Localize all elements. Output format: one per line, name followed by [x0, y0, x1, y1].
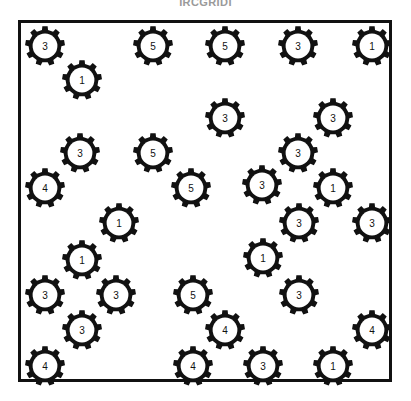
- gear-token[interactable]: 1: [352, 26, 392, 66]
- gear-value-label: 4: [222, 325, 228, 336]
- gear-value-label: 1: [116, 218, 122, 229]
- gear-token[interactable]: 3: [278, 133, 318, 173]
- gear-icon: 3: [242, 165, 282, 205]
- gear-icon: 1: [243, 238, 283, 278]
- gear-value-label: 4: [42, 183, 48, 194]
- gear-value-label: 4: [42, 361, 48, 372]
- gear-value-label: 1: [79, 255, 85, 266]
- gear-icon: 4: [205, 310, 245, 350]
- gear-value-label: 5: [222, 41, 228, 52]
- gear-token[interactable]: 1: [313, 168, 353, 208]
- gear-value-label: 3: [296, 218, 302, 229]
- gear-token[interactable]: 1: [62, 60, 102, 100]
- gear-icon: 4: [25, 346, 65, 386]
- gear-token[interactable]: 3: [352, 203, 392, 243]
- gear-token[interactable]: 5: [133, 26, 173, 66]
- gear-token[interactable]: 5: [171, 168, 211, 208]
- gear-token[interactable]: 3: [313, 98, 353, 138]
- gear-value-label: 5: [188, 183, 194, 194]
- gear-token[interactable]: 4: [25, 168, 65, 208]
- gear-icon: 3: [205, 98, 245, 138]
- gear-icon: 3: [352, 203, 392, 243]
- gear-value-label: 3: [79, 325, 85, 336]
- gear-value-label: 3: [259, 180, 265, 191]
- gear-icon: 3: [25, 26, 65, 66]
- gear-icon: 1: [62, 60, 102, 100]
- gear-icon: 5: [133, 133, 173, 173]
- gear-token[interactable]: 3: [25, 275, 65, 315]
- gear-token[interactable]: 1: [62, 240, 102, 280]
- gear-icon: 5: [133, 26, 173, 66]
- gear-token[interactable]: 4: [352, 310, 392, 350]
- gear-value-label: 1: [369, 41, 375, 52]
- gear-value-label: 1: [330, 361, 336, 372]
- gear-value-label: 1: [79, 75, 85, 86]
- gear-icon: 3: [278, 133, 318, 173]
- gear-icon: 1: [62, 240, 102, 280]
- gear-value-label: 1: [260, 253, 266, 264]
- gear-token[interactable]: 4: [173, 346, 213, 386]
- gear-value-label: 3: [113, 290, 119, 301]
- gear-token[interactable]: 3: [60, 133, 100, 173]
- gear-value-label: 4: [369, 325, 375, 336]
- gear-icon: 3: [62, 310, 102, 350]
- gear-token[interactable]: 3: [279, 203, 319, 243]
- gear-token[interactable]: 3: [278, 26, 318, 66]
- gear-value-label: 3: [296, 290, 302, 301]
- gear-grid-canvas: IRCGRIDI 3553113335345311331133533444431: [0, 0, 411, 401]
- gear-value-label: 3: [222, 113, 228, 124]
- gear-token[interactable]: 4: [205, 310, 245, 350]
- gear-token[interactable]: 5: [133, 133, 173, 173]
- gear-token[interactable]: 5: [173, 275, 213, 315]
- gear-token[interactable]: 5: [205, 26, 245, 66]
- gear-token[interactable]: 3: [62, 310, 102, 350]
- gear-icon: 3: [60, 133, 100, 173]
- gear-icon: 3: [279, 203, 319, 243]
- gear-icon: 3: [313, 98, 353, 138]
- gear-token[interactable]: 3: [242, 165, 282, 205]
- gear-icon: 4: [173, 346, 213, 386]
- gear-icon: 1: [313, 168, 353, 208]
- gear-value-label: 3: [295, 148, 301, 159]
- gear-value-label: 3: [369, 218, 375, 229]
- gear-icon: 5: [205, 26, 245, 66]
- gear-value-label: 3: [260, 361, 266, 372]
- gear-icon: 1: [99, 203, 139, 243]
- gear-icon: 3: [25, 275, 65, 315]
- gear-token[interactable]: 3: [243, 346, 283, 386]
- gear-value-label: 3: [42, 41, 48, 52]
- gear-value-label: 5: [150, 41, 156, 52]
- gear-value-label: 3: [42, 290, 48, 301]
- gear-token[interactable]: 1: [243, 238, 283, 278]
- page-title: IRCGRIDI: [0, 0, 411, 8]
- gear-value-label: 4: [190, 361, 196, 372]
- gear-icon: 4: [352, 310, 392, 350]
- gear-icon: 1: [313, 346, 353, 386]
- gear-icon: 3: [96, 275, 136, 315]
- gear-token[interactable]: 1: [99, 203, 139, 243]
- gear-value-label: 3: [295, 41, 301, 52]
- gear-token[interactable]: 3: [279, 275, 319, 315]
- gear-value-label: 3: [330, 113, 336, 124]
- gear-value-label: 5: [150, 148, 156, 159]
- gear-icon: 5: [173, 275, 213, 315]
- gear-token[interactable]: 4: [25, 346, 65, 386]
- gear-icon: 5: [171, 168, 211, 208]
- gear-icon: 1: [352, 26, 392, 66]
- gear-icon: 4: [25, 168, 65, 208]
- gear-icon: 3: [279, 275, 319, 315]
- gear-token[interactable]: 3: [25, 26, 65, 66]
- gear-token[interactable]: 1: [313, 346, 353, 386]
- gear-token[interactable]: 3: [96, 275, 136, 315]
- gear-icon: 3: [243, 346, 283, 386]
- gear-value-label: 5: [190, 290, 196, 301]
- gear-value-label: 3: [77, 148, 83, 159]
- gear-token[interactable]: 3: [205, 98, 245, 138]
- gear-board: 3553113335345311331133533444431: [18, 20, 392, 382]
- gear-icon: 3: [278, 26, 318, 66]
- gear-value-label: 1: [330, 183, 336, 194]
